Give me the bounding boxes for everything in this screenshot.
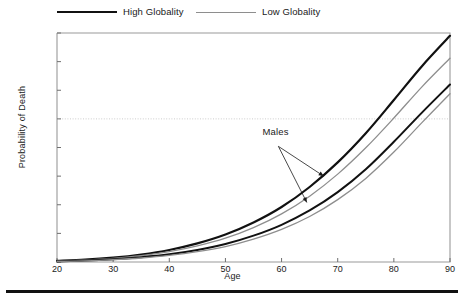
y-axis-title: Probability of Death xyxy=(17,57,27,197)
plot-area xyxy=(0,0,465,302)
x-axis-title: Age xyxy=(0,271,465,281)
annotation-arrow-head-1 xyxy=(318,172,323,177)
y-axis-tick-marks xyxy=(57,33,61,262)
curve-males-low-globality xyxy=(57,58,450,261)
figure-probability-of-death-by-age: High Globality Low Globality 0.000.100.2… xyxy=(0,0,465,302)
bottom-divider-rule xyxy=(6,290,458,293)
annotation-label-males: Males xyxy=(262,126,288,137)
curve-females-high-globality xyxy=(57,85,450,262)
data-curves xyxy=(57,36,450,262)
annotation-arrow-line-2 xyxy=(278,146,306,202)
annotation-arrow-line-1 xyxy=(278,146,323,176)
